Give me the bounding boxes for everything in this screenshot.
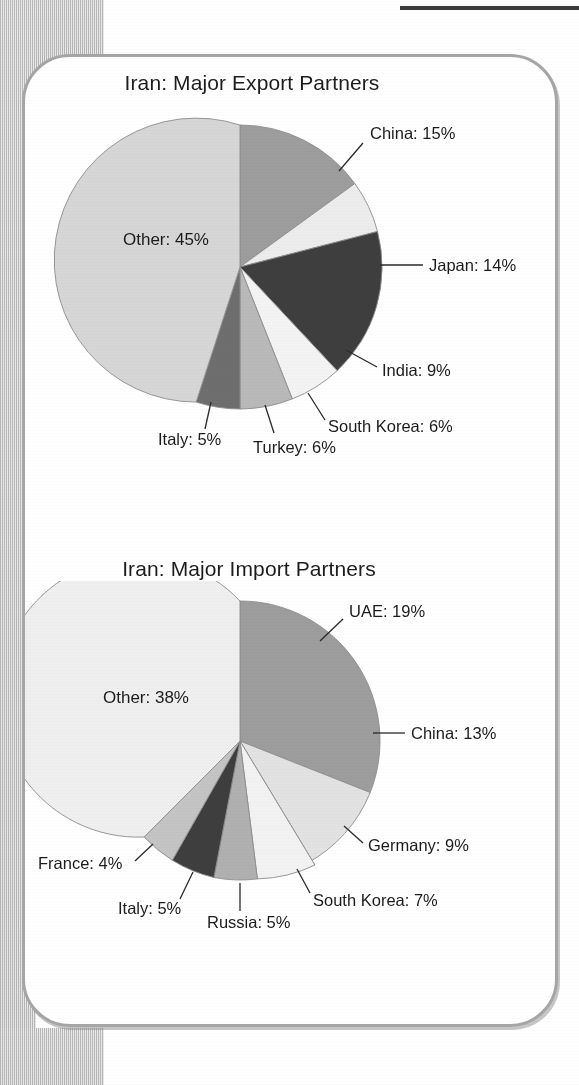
export-pie-slices: [54, 118, 382, 409]
label-italy: Italy: 5%: [118, 899, 182, 917]
page-background-texture-bottom: [0, 1028, 104, 1085]
import-chart-title: Iran: Major Import Partners: [25, 557, 555, 581]
leader-line-germany: [344, 826, 363, 843]
label-russia: Russia: 5%: [207, 913, 291, 931]
label-china: China: 13%: [411, 724, 497, 742]
export-pie-wrap: China: 15% Japan: 14% India: 9% South Ko…: [25, 95, 555, 505]
leader-line-south-korea: [297, 869, 310, 893]
import-pie-slices: [25, 581, 380, 880]
label-other: Other: 38%: [103, 688, 189, 707]
leader-line-china: [339, 143, 363, 171]
label-china: China: 15%: [370, 124, 456, 142]
label-germany: Germany: 9%: [368, 836, 469, 854]
leader-line-italy: [180, 872, 193, 899]
label-turkey: Turkey: 6%: [253, 438, 336, 456]
leader-line-italy: [205, 402, 211, 429]
label-other: Other: 45%: [123, 230, 209, 249]
import-pie-wrap: UAE: 19% China: 13% Germany: 9% South Ko…: [25, 581, 555, 991]
label-italy: Italy: 5%: [158, 430, 222, 448]
charts-card: Iran: Major Export Partners: [22, 54, 558, 1027]
label-south-korea: South Korea: 7%: [313, 891, 438, 909]
label-south-korea: South Korea: 6%: [328, 417, 453, 435]
leader-line-south-korea: [308, 393, 325, 420]
page-header-rule: [400, 6, 579, 10]
leader-line-france: [135, 844, 153, 861]
leader-line-turkey: [265, 405, 274, 433]
leader-line-india: [346, 350, 377, 367]
import-pie-svg: UAE: 19% China: 13% Germany: 9% South Ko…: [25, 581, 555, 991]
export-partners-chart: Iran: Major Export Partners: [25, 71, 555, 541]
label-japan: Japan: 14%: [429, 256, 516, 274]
label-uae: UAE: 19%: [349, 602, 425, 620]
scanned-page: Iran: Major Export Partners: [0, 0, 579, 1085]
export-chart-title: Iran: Major Export Partners: [25, 71, 555, 95]
import-partners-chart: Iran: Major Import Partners: [25, 557, 555, 1017]
label-india: India: 9%: [382, 361, 451, 379]
label-france: France: 4%: [38, 854, 123, 872]
export-pie-svg: China: 15% Japan: 14% India: 9% South Ko…: [25, 95, 555, 505]
